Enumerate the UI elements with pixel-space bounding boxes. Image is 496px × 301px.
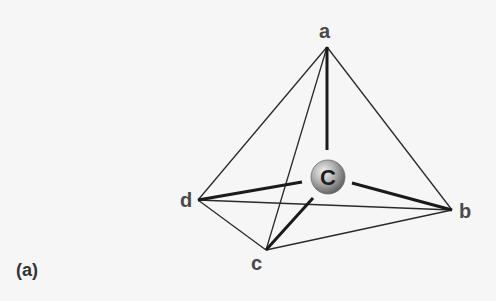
vertex-label-a: a bbox=[319, 20, 331, 42]
edge-bd bbox=[198, 200, 452, 210]
vertex-label-b: b bbox=[459, 200, 471, 222]
carbon-bonds bbox=[198, 47, 452, 250]
edge-ad bbox=[198, 47, 327, 200]
bond-c-b bbox=[352, 183, 452, 210]
edge-bc bbox=[266, 210, 452, 250]
carbon-label: C bbox=[320, 165, 336, 190]
vertex-label-c: c bbox=[251, 252, 262, 274]
carbon-atom: C bbox=[311, 160, 345, 194]
vertex-label-d: d bbox=[180, 189, 192, 211]
edge-ac bbox=[266, 47, 327, 250]
bond-c-d bbox=[198, 182, 302, 200]
edge-ab bbox=[327, 47, 452, 210]
edge-cd bbox=[198, 200, 266, 250]
tetrahedron-edges bbox=[198, 47, 452, 250]
tetrahedron-diagram: C a b c d bbox=[0, 0, 496, 301]
panel-label: (a) bbox=[16, 260, 38, 281]
figure-canvas: C a b c d (a) bbox=[0, 0, 496, 301]
bond-c-c bbox=[266, 198, 313, 250]
